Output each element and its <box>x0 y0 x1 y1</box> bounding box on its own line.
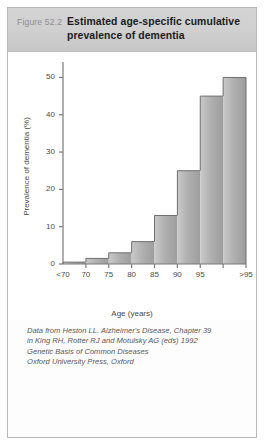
bar-70 <box>86 258 109 264</box>
bars-group <box>63 77 246 264</box>
bar-80 <box>132 242 155 264</box>
bar-90 <box>177 171 200 264</box>
figure-title-line-2: prevalence of dementia <box>67 29 248 43</box>
caption-line-2: in King RH, Rotter RJ and Motulsky AG (e… <box>27 336 256 346</box>
bar-75 <box>109 253 132 264</box>
plot-area: 01020304050 <70707580859095>95>95 Preval… <box>8 52 256 320</box>
bar-85 <box>155 216 178 265</box>
figure-number-label: Figure 52.2 <box>17 17 62 27</box>
caption-line-3: Genetic Basis of Common Diseases <box>27 347 256 357</box>
y-tick-0: 0 <box>33 259 55 268</box>
figure-title-line-1: Estimated age-specific cumulative <box>67 15 248 29</box>
y-tick-20: 20 <box>33 184 55 193</box>
y-tick-50: 50 <box>33 72 55 81</box>
figure-caption: Data from Heston LL. Alzheimer's Disease… <box>8 320 256 368</box>
figure-title: Estimated age-specific cumulative preval… <box>67 15 248 42</box>
x-axis-title: Age (years) <box>8 309 256 318</box>
x-tick-upper: >95 <box>233 270 257 279</box>
figure-header: Figure 52.2 Estimated age-specific cumul… <box>8 8 256 52</box>
y-tick-10: 10 <box>33 222 55 231</box>
figure-card: Figure 52.2 Estimated age-specific cumul… <box>7 7 257 438</box>
x-tick-95: 95 <box>187 270 213 279</box>
caption-line-1: Data from Heston LL. Alzheimer's Disease… <box>27 326 256 336</box>
caption-line-4: Oxford University Press, Oxford <box>27 357 256 367</box>
bar-95 <box>200 96 223 264</box>
y-axis-title: Prevalence of dementia (%) <box>22 82 31 252</box>
y-tick-40: 40 <box>33 110 55 119</box>
y-tick-30: 30 <box>33 147 55 156</box>
bar->95 <box>223 77 246 264</box>
